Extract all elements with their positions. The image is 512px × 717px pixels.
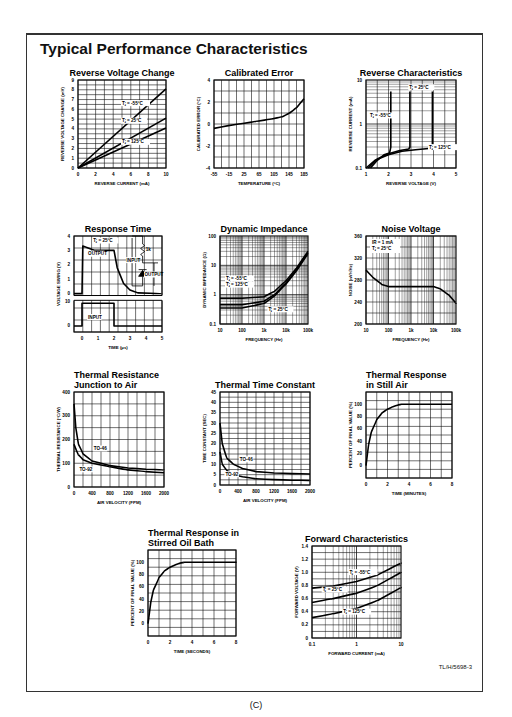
svg-text:15: 15 <box>211 452 217 457</box>
svg-text:1: 1 <box>71 156 74 161</box>
svg-text:REVERSE CURRENT (mA): REVERSE CURRENT (mA) <box>348 96 353 151</box>
reference-code: TL/H/5698-3 <box>439 664 472 670</box>
svg-text:4: 4 <box>207 78 210 83</box>
chart-calibrated-error: Calibrated Error-55-152565105145185-4-20… <box>192 68 322 192</box>
svg-text:Response Time: Response Time <box>85 224 151 234</box>
svg-text:2: 2 <box>94 172 97 177</box>
svg-text:6: 6 <box>429 482 432 487</box>
svg-text:1: 1 <box>355 642 358 647</box>
svg-text:1: 1 <box>365 172 368 177</box>
svg-text:TIME (MINUTES): TIME (MINUTES) <box>392 491 427 496</box>
svg-text:105: 105 <box>270 172 278 177</box>
svg-text:4: 4 <box>408 482 411 487</box>
svg-text:100k: 100k <box>451 328 462 333</box>
svg-text:320: 320 <box>354 256 362 261</box>
svg-text:6: 6 <box>213 640 216 645</box>
svg-text:8: 8 <box>451 482 454 487</box>
chart-response-time: Response Time01234501234100TIME (µs)VOLT… <box>58 222 180 356</box>
svg-text:TIME (µs): TIME (µs) <box>108 345 128 350</box>
svg-text:6: 6 <box>130 172 133 177</box>
svg-text:10: 10 <box>398 642 404 647</box>
svg-text:Reverse Voltage Change: Reverse Voltage Change <box>70 68 175 78</box>
svg-text:Reverse Characteristics: Reverse Characteristics <box>360 68 463 78</box>
svg-text:INPUT: INPUT <box>127 258 141 263</box>
svg-text:10k: 10k <box>282 328 290 333</box>
svg-text:25: 25 <box>241 172 247 177</box>
chart-reverse-voltage-change: Reverse Voltage Change02468100123456789R… <box>58 68 184 192</box>
svg-text:100: 100 <box>354 402 362 407</box>
svg-text:-2: -2 <box>206 144 211 149</box>
svg-text:40: 40 <box>211 400 217 405</box>
svg-text:TO-92: TO-92 <box>225 472 238 477</box>
svg-text:800: 800 <box>252 489 260 494</box>
svg-text:0: 0 <box>67 485 70 490</box>
svg-text:0: 0 <box>67 291 70 296</box>
svg-text:65: 65 <box>256 172 262 177</box>
svg-text:TO-92: TO-92 <box>79 467 92 472</box>
chart-thermal-resistance: Thermal ResistanceJunction to Air0400800… <box>58 372 182 511</box>
svg-text:4: 4 <box>112 172 115 177</box>
svg-text:0: 0 <box>67 323 70 328</box>
svg-text:240: 240 <box>354 300 362 305</box>
svg-text:100: 100 <box>62 461 70 466</box>
svg-text:300: 300 <box>62 413 70 418</box>
svg-text:NOISE (nV/√Hz): NOISE (nV/√Hz) <box>348 263 353 296</box>
svg-text:2: 2 <box>113 336 116 341</box>
svg-text:4: 4 <box>191 640 194 645</box>
svg-text:0: 0 <box>81 336 84 341</box>
svg-text:0.1: 0.1 <box>309 642 316 647</box>
svg-text:TEMPERATURE (°C): TEMPERATURE (°C) <box>238 181 281 186</box>
svg-text:80: 80 <box>139 572 145 577</box>
svg-text:VOLTAGE SWING (V): VOLTAGE SWING (V) <box>56 262 61 306</box>
svg-text:0.2: 0.2 <box>302 622 309 627</box>
svg-text:1: 1 <box>67 277 70 282</box>
svg-text:Dynamic Impedance: Dynamic Impedance <box>220 224 307 234</box>
svg-text:INPUT: INPUT <box>88 315 102 320</box>
svg-text:DYNAMIC IMPEDANCE (Ω): DYNAMIC IMPEDANCE (Ω) <box>202 252 207 308</box>
svg-text:0: 0 <box>219 489 222 494</box>
svg-text:OUTPUT: OUTPUT <box>88 251 107 256</box>
svg-text:200: 200 <box>354 322 362 327</box>
svg-text:20: 20 <box>357 451 363 456</box>
svg-text:10: 10 <box>211 263 217 268</box>
svg-text:2000: 2000 <box>159 491 170 496</box>
svg-text:7: 7 <box>71 97 74 102</box>
svg-text:8: 8 <box>147 172 150 177</box>
svg-text:3: 3 <box>410 172 413 177</box>
svg-text:2: 2 <box>169 640 172 645</box>
svg-text:1.2: 1.2 <box>302 557 309 562</box>
svg-text:FREQUENCY (Hz): FREQUENCY (Hz) <box>393 337 431 342</box>
svg-text:9: 9 <box>71 78 74 83</box>
svg-text:8: 8 <box>71 87 74 92</box>
svg-text:TO-46: TO-46 <box>94 446 107 451</box>
svg-text:FREQUENCY (Hz): FREQUENCY (Hz) <box>246 337 284 342</box>
svg-text:20: 20 <box>211 441 217 446</box>
svg-text:0: 0 <box>73 491 76 496</box>
svg-text:REVERSE VOLTAGE (V): REVERSE VOLTAGE (V) <box>386 181 436 186</box>
svg-text:-55: -55 <box>211 172 218 177</box>
svg-text:Calibrated Error: Calibrated Error <box>225 68 294 78</box>
svg-text:3: 3 <box>71 136 74 141</box>
svg-text:0.1: 0.1 <box>210 322 217 327</box>
svg-text:0: 0 <box>77 172 80 177</box>
svg-text:0: 0 <box>147 640 150 645</box>
svg-text:8: 8 <box>235 640 238 645</box>
svg-text:1: 1 <box>213 292 216 297</box>
svg-text:-4: -4 <box>206 166 211 171</box>
svg-text:FORWARD VOLTAGE (V): FORWARD VOLTAGE (V) <box>294 566 299 618</box>
svg-text:100: 100 <box>136 560 144 565</box>
figure-caption: (C) <box>0 700 512 710</box>
svg-text:60: 60 <box>139 584 145 589</box>
svg-text:1: 1 <box>359 122 362 127</box>
svg-text:45: 45 <box>211 390 217 395</box>
svg-text:10: 10 <box>65 299 71 304</box>
svg-text:TIME CONSTANT (SEC): TIME CONSTANT (SEC) <box>202 413 207 462</box>
svg-text:10: 10 <box>211 462 217 467</box>
svg-text:4: 4 <box>71 126 74 131</box>
svg-text:0.4: 0.4 <box>302 609 309 614</box>
svg-text:200: 200 <box>62 437 70 442</box>
svg-text:800: 800 <box>106 491 114 496</box>
svg-text:CALIBRATED ERROR (°C): CALIBRATED ERROR (°C) <box>196 96 201 151</box>
svg-text:OUTPUT: OUTPUT <box>145 272 164 277</box>
svg-text:2: 2 <box>71 146 74 151</box>
